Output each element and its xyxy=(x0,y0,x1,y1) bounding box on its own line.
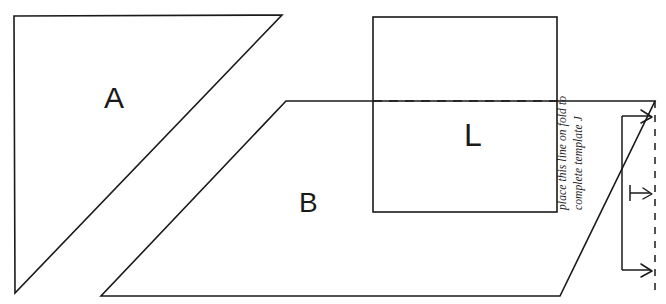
triangle-a-label: A xyxy=(104,83,124,113)
triangle-a-shape xyxy=(14,15,282,293)
template-sheet: A B L place this line on fold to complet… xyxy=(0,0,666,304)
parallelogram-b-label: B xyxy=(299,189,318,217)
square-l-shape xyxy=(373,17,557,212)
square-l-label: L xyxy=(464,119,482,151)
fold-instruction-note: place this line on fold to complete temp… xyxy=(555,50,586,210)
